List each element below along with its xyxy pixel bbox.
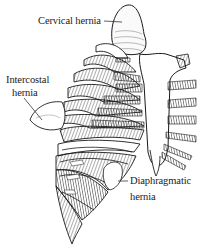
hernia-diagram: Cervical hernia Intercostal hernia Diaph… (0, 0, 200, 248)
diaphragmatic-hernia-shape (103, 162, 122, 190)
cervical-hernia-label: Cervical hernia (38, 15, 101, 27)
diaphragmatic-hernia-label-line2: hernia (130, 191, 156, 203)
intercostal-hernia-shape (30, 102, 65, 130)
intercostal-hernia-label-line1: Intercostal (6, 74, 49, 86)
rib-cage-illustration (0, 0, 200, 248)
intercostal-hernia-label-line2: hernia (12, 87, 38, 99)
diaphragmatic-hernia-label-line1: Diaphragmatic (130, 175, 191, 187)
